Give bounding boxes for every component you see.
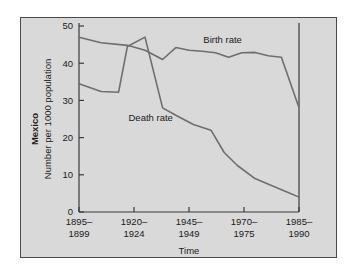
y-tick-label-40: 40 bbox=[62, 58, 73, 69]
y-axis-title: Number per 1000 population bbox=[42, 59, 53, 179]
x-tick-label-top-2: 1945– bbox=[176, 216, 203, 227]
x-tick-label-top-3: 1970– bbox=[231, 216, 258, 227]
series-line-death-rate bbox=[79, 37, 299, 197]
x-tick-label-bottom-0: 1899 bbox=[68, 228, 89, 239]
x-axis-ticks bbox=[79, 207, 299, 212]
series-label-death-rate: Death rate bbox=[129, 112, 173, 123]
x-axis-title: Time bbox=[179, 245, 200, 256]
x-axis-tick-labels: 1895–18991920–19241945–19491970–19751985… bbox=[66, 216, 313, 239]
y-axis-ticks bbox=[79, 26, 84, 212]
x-tick-label-bottom-3: 1975 bbox=[233, 228, 254, 239]
y-tick-label-10: 10 bbox=[62, 169, 73, 180]
x-tick-label-bottom-4: 1990 bbox=[288, 228, 309, 239]
x-tick-label-top-4: 1985– bbox=[286, 216, 313, 227]
x-tick-label-top-0: 1895– bbox=[66, 216, 93, 227]
y-tick-label-30: 30 bbox=[62, 95, 73, 106]
chart-figure-panel: 01020304050 1895–18991920–19241945–19491… bbox=[20, 17, 337, 258]
y-tick-label-50: 50 bbox=[62, 20, 73, 31]
y-axis-tick-labels: 01020304050 bbox=[62, 20, 73, 217]
series-line-birth-rate bbox=[79, 37, 299, 108]
y-tick-label-20: 20 bbox=[62, 132, 73, 143]
series-label-birth-rate: Birth rate bbox=[203, 34, 242, 45]
region-label: Mexico bbox=[29, 113, 40, 145]
demographic-transition-chart: 01020304050 1895–18991920–19241945–19491… bbox=[21, 18, 336, 257]
x-tick-label-bottom-1: 1924 bbox=[123, 228, 144, 239]
x-tick-label-top-1: 1920– bbox=[121, 216, 148, 227]
x-tick-label-bottom-2: 1949 bbox=[178, 228, 199, 239]
